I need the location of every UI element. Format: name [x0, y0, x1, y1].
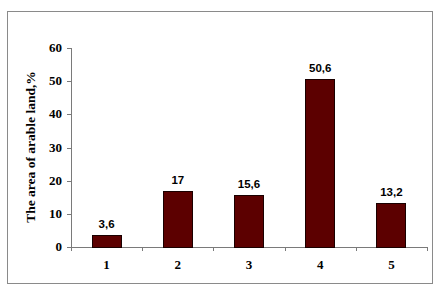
- y-axis-line: [71, 48, 72, 247]
- x-category-label: 4: [300, 257, 340, 273]
- y-tick-label: 20: [30, 174, 62, 188]
- x-tick-mark: [213, 247, 214, 251]
- x-tick-mark: [285, 247, 286, 251]
- y-tick-label: 40: [30, 107, 62, 121]
- y-tick-label: 0: [30, 240, 62, 254]
- x-tick-mark: [142, 247, 143, 251]
- x-category-label: 3: [229, 257, 269, 273]
- x-category-label: 2: [158, 257, 198, 273]
- y-tick-label: 10: [30, 207, 62, 221]
- x-category-label: 5: [371, 257, 411, 273]
- bar-value-label: 3,6: [82, 218, 132, 230]
- y-tick-label: 50: [30, 74, 62, 88]
- bar-5: [376, 203, 406, 248]
- x-tick-mark: [427, 247, 428, 251]
- x-tick-mark: [71, 247, 72, 251]
- bar-value-label: 17: [153, 174, 203, 186]
- x-category-label: 1: [87, 257, 127, 273]
- bar-1: [92, 235, 122, 248]
- bar-value-label: 50,6: [295, 62, 345, 74]
- bar-4: [305, 79, 335, 248]
- x-tick-mark: [356, 247, 357, 251]
- y-tick-label: 60: [30, 41, 62, 55]
- y-tick-label: 30: [30, 141, 62, 155]
- bar-3: [234, 195, 264, 248]
- bar-2: [163, 191, 193, 248]
- bar-value-label: 13,2: [366, 186, 416, 198]
- bar-value-label: 15,6: [224, 178, 274, 190]
